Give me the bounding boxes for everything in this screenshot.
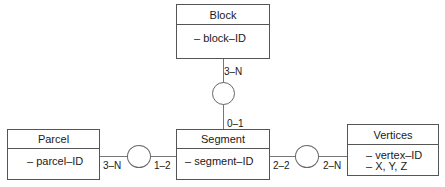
relationship-circle-parcel-segment (127, 145, 151, 168)
entity-block-attributes: – block–ID (177, 25, 269, 44)
entity-segment-title: Segment (177, 130, 269, 149)
attribute-parcel-id: – parcel–ID (27, 156, 99, 167)
entity-segment: Segment – segment–ID (176, 129, 270, 180)
entity-vertices-attributes: – vertex–ID – X, Y, Z (348, 145, 438, 172)
cardinality-segment-right: 2–2 (273, 161, 290, 171)
cardinality-block-side: 3–N (224, 67, 242, 77)
entity-parcel: Parcel – parcel–ID (7, 129, 100, 180)
entity-segment-attributes: – segment–ID (177, 149, 269, 167)
entity-vertices-title: Vertices (348, 125, 438, 145)
entity-parcel-title: Parcel (8, 130, 99, 149)
relationship-circle-block-segment (212, 82, 235, 105)
relationship-circle-segment-vertices (295, 145, 319, 168)
entity-vertices: Vertices – vertex–ID – X, Y, Z (347, 124, 439, 176)
entity-block: Block – block–ID (176, 4, 270, 59)
cardinality-vertices-side: 2–N (323, 161, 341, 171)
attribute-xyz: – X, Y, Z (366, 161, 438, 172)
cardinality-segment-top: 0–1 (227, 119, 244, 129)
entity-block-title: Block (177, 5, 269, 25)
attribute-block-id: – block–ID (194, 33, 269, 44)
attribute-segment-id: – segment–ID (185, 156, 269, 167)
cardinality-segment-left: 1–2 (154, 161, 171, 171)
entity-parcel-attributes: – parcel–ID (8, 149, 99, 167)
cardinality-parcel-side: 3–N (103, 161, 121, 171)
